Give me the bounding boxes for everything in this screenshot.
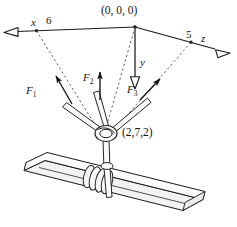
beam bbox=[24, 153, 205, 211]
rope-1 bbox=[63, 103, 101, 132]
x-axis-arrowhead-icon bbox=[4, 28, 18, 37]
knot-coordinate-label: (2,7,2) bbox=[122, 127, 153, 139]
knot bbox=[95, 126, 117, 142]
origin-label: (0, 0, 0) bbox=[101, 5, 137, 17]
force-1-arrow bbox=[56, 76, 72, 104]
x-axis-label: x bbox=[31, 17, 36, 28]
force-3-arrow bbox=[140, 79, 160, 100]
z-axis-arrowhead-icon bbox=[216, 50, 231, 58]
statics-figure: (0, 0, 0) x 6 5 z y F1 F2 F3 (2,7,2) bbox=[0, 0, 237, 227]
rope-2 bbox=[94, 91, 110, 129]
force-3-subscript: 3 bbox=[134, 89, 138, 98]
axis-triad bbox=[4, 25, 230, 89]
force-2-label: F2 bbox=[83, 72, 93, 83]
force-1-label: F1 bbox=[26, 85, 36, 96]
force-2-symbol: F bbox=[83, 71, 90, 83]
force-vectors bbox=[56, 72, 160, 104]
force-3-label: F3 bbox=[127, 84, 137, 95]
construction-lines bbox=[37, 27, 192, 128]
x-tick-label-6: 6 bbox=[46, 15, 52, 26]
y-axis-label: y bbox=[140, 57, 145, 68]
z-tick-label-5: 5 bbox=[186, 29, 192, 40]
force-2-subscript: 2 bbox=[90, 77, 94, 86]
z-axis-label: z bbox=[201, 33, 205, 44]
force-1-subscript: 1 bbox=[33, 90, 37, 99]
force-3-symbol: F bbox=[127, 83, 134, 95]
force-1-symbol: F bbox=[26, 84, 33, 96]
coil-top-eye bbox=[101, 163, 113, 170]
knot-inner-loop bbox=[100, 129, 112, 137]
